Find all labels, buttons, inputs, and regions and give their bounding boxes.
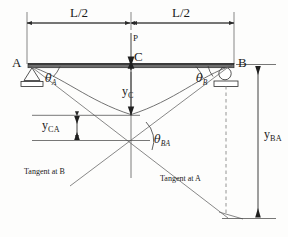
point-load-label: P (133, 34, 138, 43)
theta-b-symbol: θ (196, 72, 203, 85)
angle-arc-theta-ba (146, 122, 154, 150)
right-span-dimension-label: L/2 (172, 6, 190, 19)
tangent-at-a-label: Tangent at A (160, 175, 201, 183)
support-b-label: B (238, 56, 247, 69)
beam-deflection-diagram: L/2 L/2 A B C P θA θB θBA yC yCA yBA Tan… (0, 0, 288, 237)
theta-b-label: θB (196, 73, 207, 87)
yca-label: yCA (42, 119, 60, 135)
theta-b-subscript: B (203, 78, 208, 87)
dimension-extension-lines (27, 12, 234, 64)
dimension-yba (255, 66, 261, 218)
pin-support-a (21, 68, 43, 87)
yc-subscript: C (128, 91, 134, 100)
theta-a-subscript: A (52, 78, 57, 87)
yba-label: yBA (264, 128, 282, 144)
theta-ba-label: θBA (154, 134, 170, 148)
yc-label: yC (122, 85, 134, 101)
yca-subscript: CA (48, 125, 60, 134)
midspan-c-label: C (134, 50, 143, 63)
roller-support-b (214, 67, 238, 86)
theta-a-symbol: θ (45, 72, 52, 85)
support-a-label: A (12, 56, 21, 69)
theta-ba-subscript: BA (161, 139, 171, 148)
theta-ba-symbol: θ (154, 133, 161, 146)
left-span-dimension-label: L/2 (70, 6, 88, 19)
tangent-line-at-a (29, 65, 243, 219)
tangent-at-b-label: Tangent at B (24, 168, 65, 176)
theta-a-label: θA (45, 73, 56, 87)
dimension-yca (74, 116, 80, 140)
yba-subscript: BA (270, 134, 282, 143)
